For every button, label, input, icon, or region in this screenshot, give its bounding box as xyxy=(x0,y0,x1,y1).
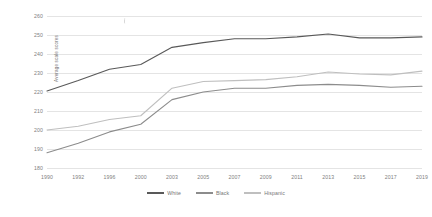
x-tick-label: 1992 xyxy=(72,174,84,180)
x-tick-label: 1996 xyxy=(104,174,116,180)
legend-label: Black xyxy=(216,190,229,196)
y-tick-label: 230 xyxy=(34,70,43,76)
y-tick-label: 250 xyxy=(34,32,43,38)
gridline xyxy=(47,168,422,169)
x-tick-label: 2011 xyxy=(291,174,303,180)
y-tick-label: 240 xyxy=(34,51,43,57)
stray-artifact-mark xyxy=(124,18,129,24)
legend-item-black[interactable]: Black xyxy=(196,190,229,196)
line-chart: 180190200210220230240250260 199019921996… xyxy=(0,0,432,217)
y-tick-label: 180 xyxy=(34,165,43,171)
series-line-black xyxy=(47,84,422,152)
y-axis-title: Average scale scores xyxy=(54,21,59,97)
x-tick-label: 2009 xyxy=(260,174,272,180)
plot-area: 180190200210220230240250260 199019921996… xyxy=(47,16,422,168)
legend-line-swatch xyxy=(196,192,213,193)
legend-item-white[interactable]: White xyxy=(147,190,181,196)
x-tick-label: 2013 xyxy=(322,174,334,180)
legend-label: White xyxy=(167,190,181,196)
legend-line-swatch xyxy=(147,192,164,193)
series-line-white xyxy=(47,34,422,91)
x-tick-label: 2007 xyxy=(229,174,241,180)
y-tick-label: 210 xyxy=(34,108,43,114)
x-tick-label: 2003 xyxy=(166,174,178,180)
y-tick-label: 190 xyxy=(34,146,43,152)
y-tick-label: 260 xyxy=(34,13,43,19)
x-tick-label: 2017 xyxy=(385,174,397,180)
x-tick-label: 2000 xyxy=(135,174,147,180)
chart-legend: WhiteBlackHispanic xyxy=(0,190,432,196)
legend-label: Hispanic xyxy=(264,190,285,196)
y-tick-label: 200 xyxy=(34,127,43,133)
x-tick-label: 1990 xyxy=(41,174,53,180)
y-tick-label: 220 xyxy=(34,89,43,95)
series-line-hispanic xyxy=(47,71,422,130)
x-tick-label: 2005 xyxy=(197,174,209,180)
x-tick-label: 2015 xyxy=(354,174,366,180)
series-lines xyxy=(47,16,422,168)
legend-item-hispanic[interactable]: Hispanic xyxy=(244,190,285,196)
legend-line-swatch xyxy=(244,192,261,193)
x-tick-label: 2019 xyxy=(416,174,428,180)
